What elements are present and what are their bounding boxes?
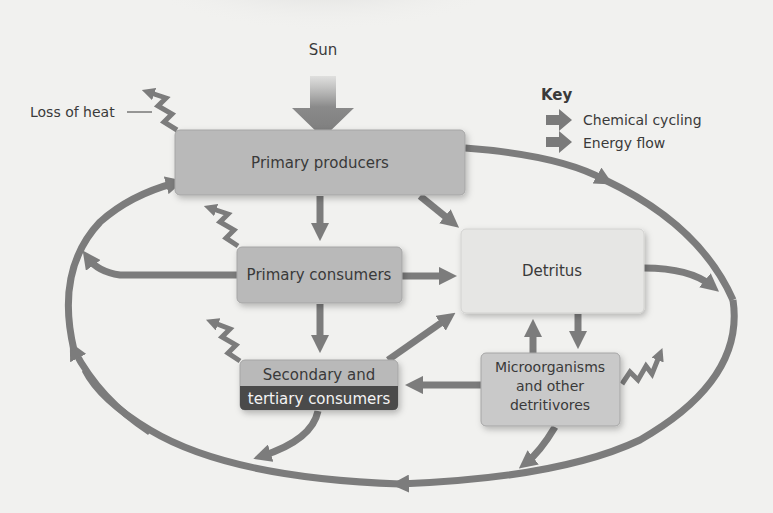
primary-producers-label: Primary producers (251, 154, 389, 172)
legend-item-chemical-cycling: Chemical cycling (583, 112, 702, 128)
chemical-cycle-loop (68, 148, 734, 484)
heat-loss-icon (212, 322, 240, 361)
ecosystem-diagram: Sun (0, 0, 773, 513)
sun-energy-arrow (292, 76, 354, 138)
node-microorganisms-detritivores: Microorganisms and other detritivores (481, 353, 620, 426)
detritus-label: Detritus (522, 262, 582, 280)
heat-loss-icon (210, 208, 238, 246)
heat-loss-icon (622, 354, 660, 384)
heat-loss-icon (148, 92, 177, 130)
legend: Key Chemical cycling Energy flow (541, 86, 702, 153)
sun-label: Sun (309, 41, 338, 59)
legend-item-energy-flow: Energy flow (583, 135, 665, 151)
tertiary-consumers-label: tertiary consumers (248, 390, 391, 408)
chemical-cycling-swatch-icon (546, 109, 572, 131)
energy-flow-swatch-icon (546, 131, 572, 153)
node-secondary-tertiary-consumers: Secondary and tertiary consumers (240, 360, 398, 410)
node-primary-producers: Primary producers (175, 130, 465, 195)
sun-glow (158, 0, 488, 75)
primary-consumers-label: Primary consumers (247, 266, 392, 284)
micro-label-line3: detritivores (510, 397, 590, 413)
node-detritus: Detritus (461, 229, 644, 313)
node-primary-consumers: Primary consumers (237, 247, 402, 303)
legend-title: Key (541, 86, 573, 104)
micro-label-line1: Microorganisms (495, 359, 605, 375)
secondary-consumers-label: Secondary and (263, 366, 375, 384)
micro-label-line2: and other (516, 378, 584, 394)
loss-of-heat-label: Loss of heat (30, 104, 115, 120)
